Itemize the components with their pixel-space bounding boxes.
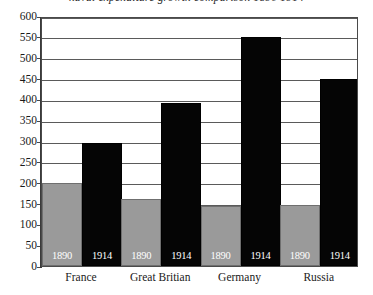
y-tick-label-300: 300 bbox=[0, 136, 37, 148]
bar-group: 18901914 bbox=[280, 18, 358, 266]
bar-group: 18901914 bbox=[121, 18, 200, 266]
bar-value-label: 1890 bbox=[122, 251, 160, 262]
chart-title-clipped: naval expenditure growth comparison 1890… bbox=[0, 0, 373, 5]
bar-chart: naval expenditure growth comparison 1890… bbox=[0, 0, 373, 295]
bar-germany-1890[interactable]: 1890 bbox=[201, 206, 241, 266]
bar-value-label: 1890 bbox=[43, 251, 81, 262]
y-tick-label-100: 100 bbox=[0, 220, 37, 232]
x-tick-label-france: France bbox=[41, 271, 121, 284]
y-tick-label-50: 50 bbox=[0, 240, 37, 252]
plot-area: 18901914189019141890191418901914 bbox=[41, 17, 358, 267]
y-tick-label-400: 400 bbox=[0, 95, 37, 107]
bar-great-britian-1890[interactable]: 1890 bbox=[121, 199, 161, 266]
y-tick-label-200: 200 bbox=[0, 178, 37, 190]
bar-group: 18901914 bbox=[42, 18, 121, 266]
bar-value-label: 1914 bbox=[162, 251, 200, 262]
bar-france-1914[interactable]: 1914 bbox=[82, 143, 122, 266]
y-tick-label-0: 0 bbox=[0, 261, 37, 273]
bar-france-1890[interactable]: 1890 bbox=[42, 183, 82, 266]
y-tick-label-450: 450 bbox=[0, 74, 37, 86]
bar-group: 18901914 bbox=[201, 18, 280, 266]
bar-russia-1914[interactable]: 1914 bbox=[320, 79, 358, 267]
y-axis-labels: 050100150200250300350400450500550600 bbox=[0, 17, 37, 267]
bar-value-label: 1914 bbox=[242, 251, 280, 262]
bar-value-label: 1890 bbox=[281, 251, 319, 262]
y-tick-label-550: 550 bbox=[0, 32, 37, 44]
y-tick-label-150: 150 bbox=[0, 199, 37, 211]
x-axis-labels: FranceGreat BritianGermanyRussia bbox=[41, 271, 358, 291]
x-tick-label-germany: Germany bbox=[200, 271, 280, 284]
y-tick-label-600: 600 bbox=[0, 11, 37, 23]
y-tick-label-350: 350 bbox=[0, 115, 37, 127]
bar-russia-1890[interactable]: 1890 bbox=[280, 205, 320, 266]
bar-value-label: 1914 bbox=[83, 251, 121, 262]
y-tick-label-250: 250 bbox=[0, 157, 37, 169]
bar-great-britian-1914[interactable]: 1914 bbox=[161, 103, 201, 266]
x-tick-label-great-britian: Great Britian bbox=[120, 271, 200, 284]
bar-value-label: 1890 bbox=[202, 251, 240, 262]
bar-germany-1914[interactable]: 1914 bbox=[241, 37, 281, 266]
bar-value-label: 1914 bbox=[321, 251, 358, 262]
x-tick-label-russia: Russia bbox=[279, 271, 359, 284]
y-tick-label-500: 500 bbox=[0, 53, 37, 65]
